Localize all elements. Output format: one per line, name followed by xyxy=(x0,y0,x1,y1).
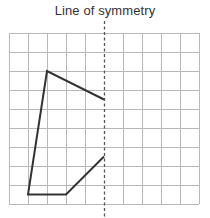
grid xyxy=(9,33,200,205)
symmetry-grid-diagram xyxy=(0,0,210,218)
